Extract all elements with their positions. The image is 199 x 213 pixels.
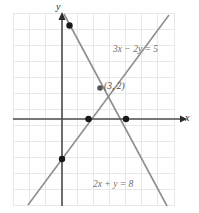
point-intersection-3-2 bbox=[97, 85, 103, 91]
linear-system-graph-figure: 3x − 2y = 5 2x + y = 8 (3, 2) y x bbox=[0, 0, 199, 213]
equation-label-line1: 3x − 2y = 5 bbox=[113, 45, 158, 55]
point-x-intercept-line1 bbox=[85, 116, 91, 122]
intersection-point-label: (3, 2) bbox=[104, 82, 125, 92]
x-axis-label: x bbox=[185, 113, 189, 123]
y-axis-label: y bbox=[56, 2, 60, 12]
point-1-6 bbox=[66, 22, 72, 28]
equation-label-line2: 2x + y = 8 bbox=[93, 180, 133, 190]
point-x-intercept-line2 bbox=[123, 116, 129, 122]
point-0-neg2p5 bbox=[59, 156, 65, 162]
